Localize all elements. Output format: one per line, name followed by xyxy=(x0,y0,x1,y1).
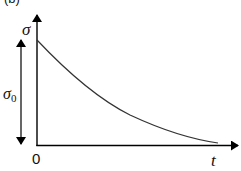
x-axis-label: t xyxy=(211,152,216,169)
stress-relaxation-diagram xyxy=(0,0,241,171)
origin-label: 0 xyxy=(32,151,40,166)
sigma0-label: σ0 xyxy=(3,86,16,104)
y-axis-label: σ xyxy=(22,21,30,38)
sigma0-subscript: 0 xyxy=(11,92,17,104)
sigma0-symbol: σ xyxy=(3,85,11,102)
decay-curve xyxy=(37,40,218,143)
panel-label: (b) xyxy=(4,0,20,5)
